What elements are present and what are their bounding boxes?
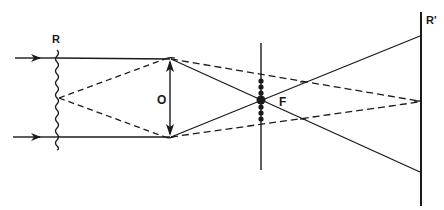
dashed-ray-bottom-to-screen: [171, 102, 419, 137]
label-focus: F: [279, 95, 286, 109]
solid-ray-bottom-to-screen: [171, 36, 420, 137]
label-object: O: [157, 93, 166, 107]
focal-point: [257, 96, 266, 105]
lens-object: [165, 58, 175, 138]
solid-ray-top-to-screen: [171, 59, 420, 172]
dashed-ray-top-to-screen: [171, 59, 419, 101]
optics-diagram: R O F: [0, 0, 444, 210]
dashed-ray-r-top: [59, 59, 165, 98]
reference-wavefront: [56, 50, 59, 150]
parallel-ray-top: [57, 58, 170, 59]
label-screen: R': [426, 14, 437, 26]
dashed-ray-r-bottom: [59, 98, 165, 137]
label-reference: R: [52, 33, 60, 45]
